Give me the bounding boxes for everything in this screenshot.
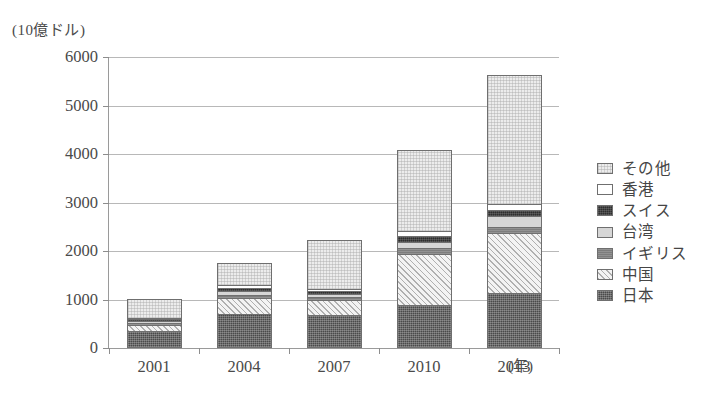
legend-swatch-china <box>597 269 613 280</box>
legend-swatch-other <box>597 163 613 174</box>
bar-segment-other <box>397 150 452 231</box>
bar-segment-china <box>307 300 362 315</box>
bar-segment-hk <box>487 204 542 210</box>
x-axis-label-2007: 2007 <box>318 359 351 376</box>
bar-segment-taiwan <box>127 321 182 323</box>
legend-swatch-japan <box>597 290 613 301</box>
bar-2007[interactable] <box>307 240 362 348</box>
y-axis-tick-label: 4000 <box>65 146 98 163</box>
bar-segment-other <box>217 263 272 285</box>
x-axis-tick <box>559 348 560 354</box>
bar-segment-swiss <box>217 288 272 291</box>
y-axis-tick-label: 1000 <box>65 291 98 308</box>
legend-item-swiss[interactable]: スイス <box>597 202 687 219</box>
legend-item-hk[interactable]: 香港 <box>597 181 687 198</box>
bar-segment-swiss <box>487 210 542 216</box>
bar-2001[interactable] <box>127 299 182 348</box>
bar-segment-taiwan <box>487 216 542 227</box>
legend-label-other: その他 <box>622 161 671 177</box>
x-axis-unit-label: (年) <box>508 359 533 374</box>
legend-swatch-hk <box>597 184 613 195</box>
x-axis-tick <box>289 348 290 354</box>
legend-swatch-uk <box>597 248 613 259</box>
legend-item-uk[interactable]: イギリス <box>597 245 687 262</box>
y-axis-tick <box>103 203 109 204</box>
bar-segment-uk <box>127 323 182 325</box>
y-axis-tick-label: 6000 <box>65 49 98 66</box>
bar-segment-taiwan <box>307 294 362 297</box>
bar-segment-uk <box>307 297 362 300</box>
bar-segment-japan <box>487 293 542 348</box>
x-axis-label-2010: 2010 <box>408 359 441 376</box>
bar-segment-swiss <box>127 319 182 321</box>
bar-segment-uk <box>217 295 272 298</box>
legend-label-china: 中国 <box>622 267 655 283</box>
bar-segment-swiss <box>307 291 362 294</box>
gridline <box>109 57 559 58</box>
plot-area: 0100020003000400050006000200120042007201… <box>108 57 559 349</box>
bar-segment-other <box>307 240 362 289</box>
bar-segment-taiwan <box>397 242 452 247</box>
legend-label-hk: 香港 <box>622 182 655 198</box>
y-axis-tick <box>103 300 109 301</box>
y-axis-tick <box>103 154 109 155</box>
bar-2010[interactable] <box>397 150 452 348</box>
legend-label-japan: 日本 <box>622 288 655 304</box>
bar-segment-hk <box>217 285 272 288</box>
chart-root: (10億ドル) 01000200030004000500060002001200… <box>0 0 718 404</box>
y-axis-unit-label: (10億ドル) <box>12 18 86 39</box>
legend-label-taiwan: 台湾 <box>622 224 655 240</box>
bar-segment-hk <box>397 231 452 236</box>
x-axis-tick <box>109 348 110 354</box>
bar-segment-japan <box>397 305 452 348</box>
legend-swatch-swiss <box>597 205 613 216</box>
y-axis-tick <box>103 106 109 107</box>
bar-segment-china <box>487 233 542 293</box>
legend-label-uk: イギリス <box>622 246 687 262</box>
bar-segment-japan <box>217 314 272 348</box>
bar-segment-japan <box>307 315 362 348</box>
x-axis-tick <box>469 348 470 354</box>
bar-2013[interactable] <box>487 75 542 348</box>
legend-label-swiss: スイス <box>622 203 671 219</box>
bar-segment-china <box>217 298 272 314</box>
legend-item-japan[interactable]: 日本 <box>597 287 687 304</box>
y-axis-tick-label: 5000 <box>65 97 98 114</box>
x-axis-tick <box>199 348 200 354</box>
bar-segment-other <box>487 75 542 204</box>
x-axis-tick <box>379 348 380 354</box>
bar-segment-other <box>127 299 182 318</box>
y-axis-tick <box>103 251 109 252</box>
bar-segment-hk <box>307 289 362 291</box>
y-axis-tick-label: 2000 <box>65 243 98 260</box>
legend-item-china[interactable]: 中国 <box>597 266 687 283</box>
y-axis-tick-label: 3000 <box>65 194 98 211</box>
bar-segment-taiwan <box>217 291 272 294</box>
chart-legend: その他香港スイス台湾イギリス中国日本 <box>597 160 687 304</box>
bar-segment-uk <box>397 248 452 254</box>
bar-segment-china <box>397 254 452 305</box>
bar-segment-hk <box>127 318 182 319</box>
legend-swatch-taiwan <box>597 227 613 238</box>
bar-segment-swiss <box>397 236 452 242</box>
x-axis-label-2004: 2004 <box>228 359 261 376</box>
legend-item-other[interactable]: その他 <box>597 160 687 177</box>
legend-item-taiwan[interactable]: 台湾 <box>597 224 687 241</box>
y-axis-tick-label: 0 <box>90 340 98 357</box>
y-axis-tick <box>103 57 109 58</box>
bar-segment-japan <box>127 331 182 348</box>
bar-segment-china <box>127 325 182 330</box>
bar-2004[interactable] <box>217 263 272 348</box>
bar-segment-uk <box>487 227 542 233</box>
x-axis-label-2001: 2001 <box>138 359 171 376</box>
